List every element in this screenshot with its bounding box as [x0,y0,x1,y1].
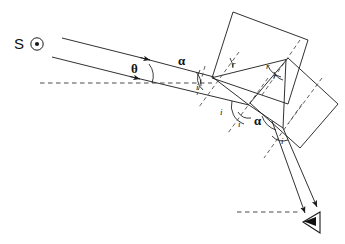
glass-slab-upper [212,12,308,104]
incidence-label-1: i [196,83,199,92]
refraction-label-3: r [273,72,277,81]
source-label: S [14,36,24,51]
incidence-label-4: i [281,137,284,146]
exit-ray-right [283,128,317,207]
angle-arc-i-4 [272,136,288,141]
refraction-label-1: r [232,60,236,69]
ray-diagram-svg [0,0,345,244]
incidence-label-2: i [220,108,223,117]
internal-ray-right [283,60,286,129]
alpha-bottom-label: α [254,114,261,127]
angle-arc-theta [149,64,153,83]
alpha-top-label: α [178,54,185,67]
incidence-label-3: i [238,120,241,129]
angle-arc-i-3 [238,112,251,118]
incident-ray-upper [62,38,150,60]
theta-label: θ [131,62,138,75]
normal-line-lower-vertex [228,78,268,133]
incident-ray-lower [52,57,140,79]
eye-icon [303,212,320,233]
refraction-label-2: r [266,62,270,71]
sun-source-icon [31,38,43,50]
optics-diagram-canvas: S θ α α i i i i r r r [0,0,345,244]
incident-ray-lower-cont [130,77,249,106]
glass-slab-lower [250,58,338,148]
